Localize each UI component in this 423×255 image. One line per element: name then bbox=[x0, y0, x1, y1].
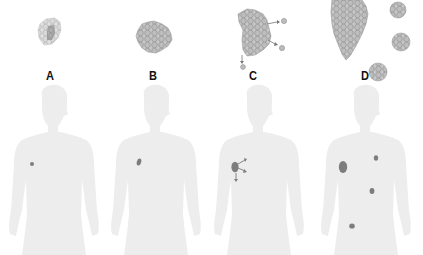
stage-label-d: D bbox=[357, 68, 374, 83]
stage-a: A bbox=[0, 0, 106, 255]
stage-b: B bbox=[102, 0, 208, 255]
tumor-marker-a bbox=[30, 162, 34, 166]
stage-c: C bbox=[205, 0, 311, 255]
stage-label-b: B bbox=[145, 68, 162, 83]
body-silhouette-a bbox=[0, 84, 106, 255]
body-silhouette-c bbox=[205, 84, 311, 255]
tumor-marker-d-secondary-1 bbox=[374, 155, 378, 161]
tumor-marker-d-secondary-2 bbox=[370, 188, 375, 194]
tumor-marker-c bbox=[231, 162, 238, 172]
body-silhouette-d bbox=[312, 84, 418, 255]
body-silhouette-b bbox=[102, 84, 208, 255]
tumor-marker-d-secondary-3 bbox=[349, 223, 355, 228]
tumor-marker-d-primary bbox=[339, 161, 347, 173]
stage-d: D bbox=[312, 0, 418, 255]
stage-label-c: C bbox=[245, 68, 262, 83]
stage-label-a: A bbox=[42, 68, 59, 83]
